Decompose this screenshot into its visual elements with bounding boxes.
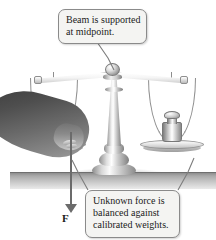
- weight-knob: [164, 111, 180, 119]
- pivot-knob-icon: [105, 63, 120, 76]
- callout-line: Beam is supported: [66, 14, 140, 26]
- callout-line: calibrated weights.: [93, 219, 173, 231]
- table-surface: [10, 173, 216, 189]
- calibrated-weight: [162, 122, 182, 142]
- callout-force-balance: Unknown force is balanced against calibr…: [85, 190, 180, 238]
- force-vector-label: F: [62, 212, 69, 224]
- force-arrow-shaft: [70, 132, 72, 208]
- callout-line: balanced against: [93, 207, 173, 219]
- beam-tip-left: [34, 76, 42, 84]
- callout-line: Unknown force is: [93, 195, 173, 207]
- balance-scale-figure: F Beam is supported at midpoint. Unknown…: [0, 0, 216, 240]
- balance-base-tier: [99, 152, 129, 166]
- callout-line: at midpoint.: [66, 26, 140, 38]
- beam-tip-right: [180, 76, 188, 84]
- callout-beam-support: Beam is supported at midpoint.: [58, 9, 147, 44]
